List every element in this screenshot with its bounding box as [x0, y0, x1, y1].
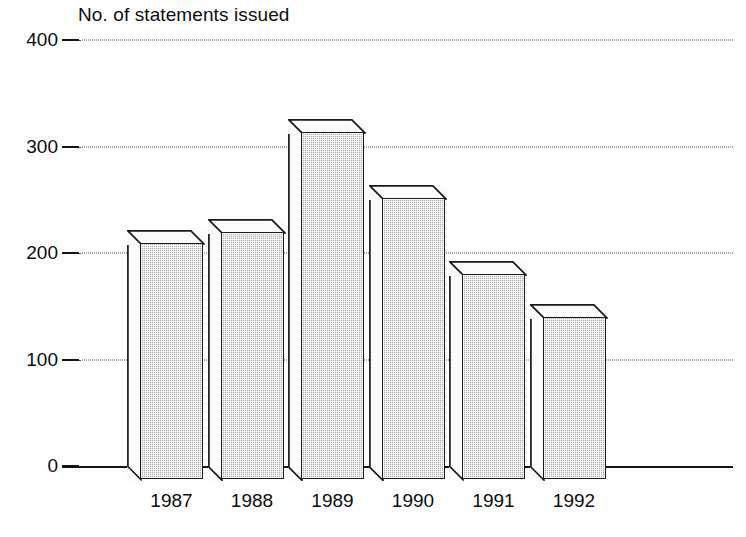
y-axis-tick-label: 300 — [6, 136, 58, 158]
y-axis-tick-label: 400 — [6, 29, 58, 51]
bar-front-face — [382, 198, 445, 479]
x-axis-tick-label: 1987 — [128, 490, 215, 512]
x-axis-tick-label: 1988 — [209, 490, 296, 512]
bar-chart: No. of statements issued 400300200100019… — [0, 0, 746, 537]
bar-1989[interactable] — [288, 119, 364, 479]
y-axis-tick-label: 0 — [6, 455, 58, 477]
bar-front-face — [543, 317, 606, 479]
bar-1992[interactable] — [530, 304, 606, 479]
bar-front-face — [301, 132, 364, 479]
y-tick-mark-300 — [62, 146, 79, 148]
bar-front-face — [462, 274, 525, 479]
bar-1988[interactable] — [208, 219, 284, 479]
x-axis-tick-label: 1989 — [289, 490, 376, 512]
bar-1990[interactable] — [369, 185, 445, 479]
gridline-300 — [79, 146, 733, 147]
x-axis-tick-label: 1992 — [531, 490, 618, 512]
bar-front-face — [221, 232, 284, 479]
bar-1987[interactable] — [127, 230, 203, 479]
bar-front-face — [140, 243, 203, 479]
y-axis-tick-label: 100 — [6, 349, 58, 371]
plot-area: 4003002001000198719881989199019911992 — [0, 0, 746, 537]
x-axis-tick-label: 1990 — [370, 490, 457, 512]
y-tick-mark-100 — [62, 359, 79, 361]
y-axis-tick-label: 200 — [6, 242, 58, 264]
gridline-400 — [79, 40, 733, 41]
bar-1991[interactable] — [449, 261, 525, 479]
x-axis-tick-label: 1991 — [450, 490, 537, 512]
y-tick-mark-200 — [62, 252, 79, 254]
y-tick-mark-400 — [62, 39, 79, 41]
